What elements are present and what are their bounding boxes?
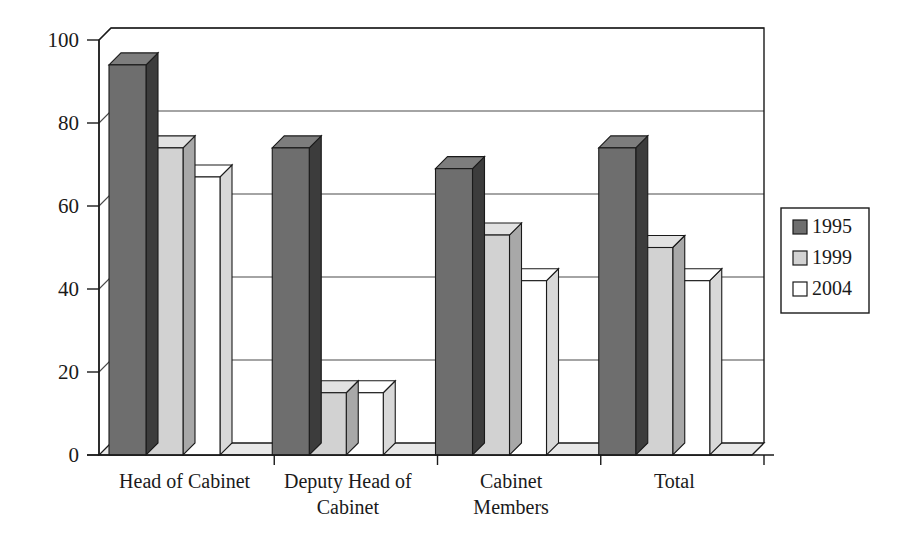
- legend-label: 1999: [812, 246, 852, 268]
- bars-group: [109, 53, 722, 455]
- y-tick-label: 20: [58, 360, 79, 384]
- y-axis-tick-labels: 020406080100: [48, 28, 80, 467]
- x-category-label: Deputy Head of: [284, 470, 412, 493]
- bar-front-face: [109, 65, 146, 455]
- x-category-label: Cabinet: [317, 496, 380, 518]
- bar-side-face: [146, 53, 158, 455]
- x-category-label: Members: [473, 496, 549, 518]
- bar: [272, 136, 321, 455]
- bar-chart-figure: 020406080100 Head of CabinetDeputy Head …: [0, 0, 906, 541]
- chart-canvas: 020406080100 Head of CabinetDeputy Head …: [0, 0, 906, 541]
- bar: [436, 157, 485, 455]
- bar-side-face: [473, 157, 485, 455]
- bar-side-face: [510, 223, 522, 455]
- x-category-label: Cabinet: [480, 470, 543, 492]
- y-tick-label: 40: [58, 277, 79, 301]
- bar-side-face: [710, 269, 722, 455]
- legend-swatch: [793, 251, 807, 265]
- bar-front-face: [272, 148, 309, 455]
- x-category-label: Total: [654, 470, 695, 492]
- y-tick-label: 60: [58, 194, 79, 218]
- bar-side-face: [383, 381, 395, 455]
- legend-label: 1995: [812, 215, 852, 237]
- bar-side-face: [636, 136, 648, 455]
- bar: [599, 136, 648, 455]
- bar-side-face: [547, 269, 559, 455]
- legend-swatch: [793, 220, 807, 234]
- bar-side-face: [183, 136, 195, 455]
- chart-legend[interactable]: 199519992004: [781, 208, 869, 313]
- y-tick-label: 100: [48, 28, 80, 52]
- x-axis-category-labels: Head of CabinetDeputy Head ofCabinetCabi…: [119, 470, 695, 518]
- legend-swatch: [793, 282, 807, 296]
- bar-side-face: [673, 236, 685, 456]
- x-category-label: Head of Cabinet: [119, 470, 251, 492]
- bar-front-face: [436, 169, 473, 455]
- bar-front-face: [599, 148, 636, 455]
- bar-side-face: [309, 136, 321, 455]
- bar: [109, 53, 158, 455]
- bar-side-face: [220, 165, 232, 455]
- y-tick-label: 80: [58, 111, 79, 135]
- legend-label: 2004: [812, 277, 852, 299]
- y-tick-label: 0: [69, 443, 80, 467]
- bar-side-face: [346, 381, 358, 455]
